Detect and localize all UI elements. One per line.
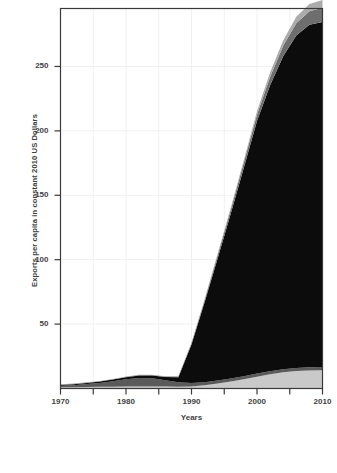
export-composition-figure: Exports per capita in constant 2010 US D…	[0, 0, 337, 473]
y-tick-label: 150	[23, 190, 49, 199]
x-axis-title: Years	[60, 413, 323, 422]
x-tick-label: 1970	[44, 397, 78, 406]
figure-caption: 2010 EVOLUTION OF EXPORT COMPOSITION	[0, 432, 337, 473]
x-tick-label: 2000	[240, 397, 274, 406]
y-tick-label: 200	[23, 126, 49, 135]
y-axis-title: Exports per capita in constant 2010 US D…	[30, 71, 39, 331]
y-tick-label: 250	[23, 61, 49, 70]
x-tick-label: 1980	[109, 397, 143, 406]
y-tick-label: 50	[23, 319, 49, 328]
chart-plot-svg	[0, 0, 337, 430]
x-tick-label: 2010	[306, 397, 337, 406]
stacked-area-chart: Exports per capita in constant 2010 US D…	[0, 0, 337, 430]
x-tick-label: 1990	[175, 397, 209, 406]
y-tick-label: 100	[23, 255, 49, 264]
